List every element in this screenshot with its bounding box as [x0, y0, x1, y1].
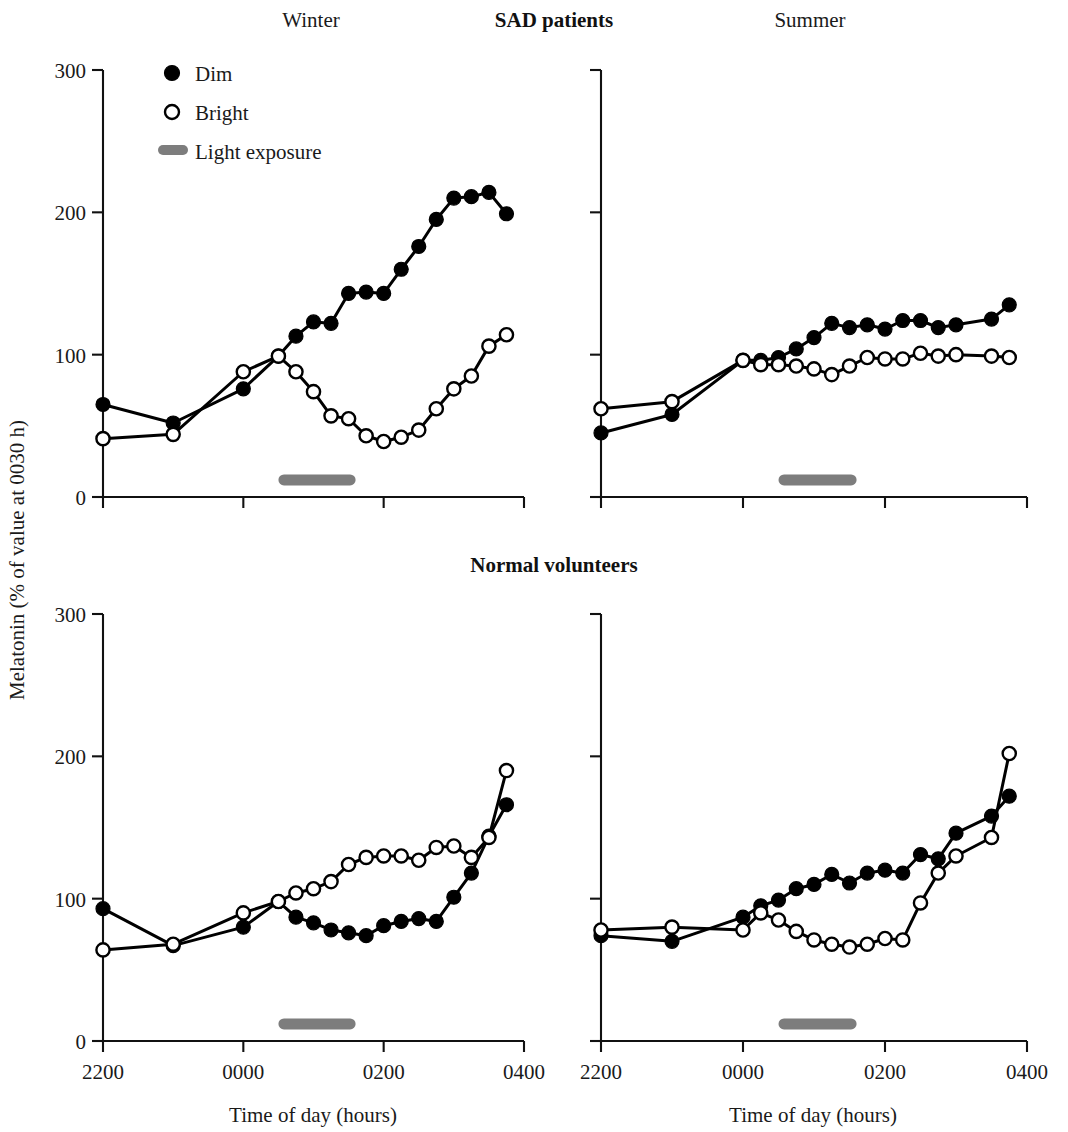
x-tick-label: 0000 — [222, 1060, 264, 1084]
melatonin-figure: Melatonin (% of value at 0030 h) Winter … — [0, 0, 1068, 1132]
data-point-bright — [896, 933, 909, 946]
data-point-bright — [665, 921, 678, 934]
series-line-dim — [103, 192, 506, 423]
data-point-dim — [665, 934, 679, 948]
data-point-dim — [1002, 789, 1016, 803]
data-point-bright — [914, 896, 927, 909]
data-point-dim — [96, 902, 110, 916]
data-point-dim — [896, 866, 910, 880]
data-point-bright — [289, 886, 302, 899]
data-point-bright — [96, 432, 109, 445]
data-point-bright — [324, 409, 337, 422]
data-point-dim — [878, 322, 892, 336]
group-title-normal: Normal volunteers — [470, 553, 637, 577]
light-exposure-bar — [278, 1018, 355, 1029]
data-point-dim — [429, 212, 443, 226]
data-point-dim — [307, 315, 321, 329]
data-point-bright — [949, 348, 962, 361]
data-point-dim — [289, 910, 303, 924]
data-point-bright — [377, 435, 390, 448]
data-point-bright — [843, 359, 856, 372]
series-line-bright — [103, 771, 506, 950]
data-point-dim — [499, 798, 513, 812]
data-point-dim — [931, 852, 945, 866]
data-point-bright — [395, 431, 408, 444]
data-point-dim — [324, 923, 338, 937]
data-point-dim — [236, 382, 250, 396]
data-point-dim — [843, 876, 857, 890]
data-point-dim — [860, 866, 874, 880]
data-point-bright — [307, 882, 320, 895]
data-point-dim — [499, 207, 513, 221]
data-point-bright — [465, 851, 478, 864]
season-title-winter-top: Winter — [282, 8, 339, 32]
x-tick-label: 0400 — [1006, 1060, 1048, 1084]
data-point-bright — [447, 382, 460, 395]
data-point-dim — [236, 920, 250, 934]
data-point-bright — [736, 923, 749, 936]
data-point-dim — [896, 314, 910, 328]
data-point-dim — [394, 262, 408, 276]
series-line-dim — [601, 796, 1009, 941]
data-point-dim — [825, 316, 839, 330]
data-point-dim — [825, 867, 839, 881]
data-point-bright — [665, 395, 678, 408]
y-tick-label: 0 — [76, 486, 87, 510]
data-point-dim — [878, 863, 892, 877]
y-tick-label: 200 — [55, 201, 87, 225]
series-line-bright — [601, 353, 1009, 409]
data-point-dim — [807, 331, 821, 345]
data-point-bright — [272, 349, 285, 362]
data-point-bright — [825, 368, 838, 381]
x-tick-label: 0200 — [363, 1060, 405, 1084]
data-point-bright — [447, 839, 460, 852]
data-point-bright — [360, 429, 373, 442]
data-point-bright — [412, 854, 425, 867]
panel-sad-summer — [590, 70, 1027, 508]
data-point-bright — [237, 906, 250, 919]
data-point-dim — [447, 191, 461, 205]
data-point-bright — [807, 933, 820, 946]
data-point-dim — [772, 893, 786, 907]
legend-label-bright: Bright — [195, 101, 249, 125]
data-point-bright — [465, 369, 478, 382]
data-point-dim — [359, 285, 373, 299]
legend: Dim Bright Light exposure — [158, 62, 322, 164]
y-tick-label: 0 — [76, 1030, 87, 1054]
data-point-dim — [359, 929, 373, 943]
data-point-bright — [861, 351, 874, 364]
data-point-bright — [430, 402, 443, 415]
data-point-bright — [395, 849, 408, 862]
x-tick-label: 0000 — [722, 1060, 764, 1084]
series-line-bright — [103, 335, 506, 442]
data-point-bright — [167, 428, 180, 441]
x-tick-label: 2200 — [580, 1060, 622, 1084]
x-axis-title-right: Time of day (hours) — [729, 1103, 897, 1127]
data-point-bright — [342, 858, 355, 871]
data-point-dim — [860, 318, 874, 332]
data-point-dim — [412, 912, 426, 926]
legend-label-dim: Dim — [195, 62, 232, 86]
data-point-bright — [932, 349, 945, 362]
axis-spines — [601, 614, 1027, 1041]
data-point-bright — [754, 358, 767, 371]
data-point-dim — [789, 342, 803, 356]
data-point-bright — [500, 764, 513, 777]
data-point-dim — [914, 314, 928, 328]
data-point-bright — [772, 913, 785, 926]
data-point-bright — [482, 831, 495, 844]
data-point-dim — [307, 916, 321, 930]
panel-normal-winter: 01002003002200000002000400 — [55, 603, 546, 1084]
data-point-bright — [790, 359, 803, 372]
x-tick-label: 0400 — [503, 1060, 545, 1084]
data-point-bright — [167, 938, 180, 951]
y-axis-title: Melatonin (% of value at 0030 h) — [5, 420, 29, 700]
figure-root: Melatonin (% of value at 0030 h) Winter … — [0, 0, 1068, 1132]
data-point-bright — [790, 925, 803, 938]
legend-marker-dim — [165, 66, 180, 81]
data-point-bright — [237, 365, 250, 378]
x-axis-title-left: Time of day (hours) — [229, 1103, 397, 1127]
data-point-dim — [949, 318, 963, 332]
light-exposure-bar — [779, 474, 857, 485]
data-point-bright — [482, 340, 495, 353]
